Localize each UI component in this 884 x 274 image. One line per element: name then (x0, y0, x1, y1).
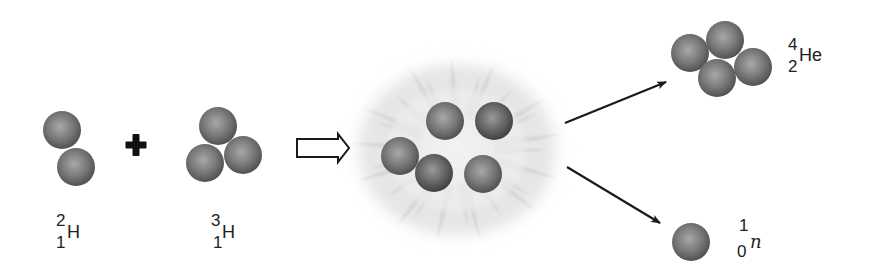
plus-icon (126, 134, 147, 156)
nucleon-sphere (426, 102, 464, 140)
nucleon-sphere (415, 154, 453, 192)
nucleon-sphere (224, 136, 262, 174)
nucleon-sphere (57, 148, 95, 186)
tritium-symbol: H (222, 223, 235, 241)
fusion-burst-cloud (342, 50, 572, 250)
neutron-atomic-number: 0 (737, 243, 746, 260)
neutron-nucleus (672, 223, 710, 261)
nucleon-sphere (186, 144, 224, 182)
nucleon-sphere (464, 155, 502, 193)
tritium-atomic-number: 1 (213, 234, 222, 251)
deuterium-nucleus (43, 111, 95, 186)
helium-atomic-number: 2 (788, 58, 797, 75)
deuterium-symbol: H (67, 223, 80, 241)
nucleon-sphere (199, 107, 237, 145)
nucleon-sphere (381, 137, 419, 175)
nucleon-sphere (706, 21, 744, 59)
nucleon-sphere (475, 102, 513, 140)
nucleon-sphere (698, 59, 736, 97)
deuterium-atomic-number: 1 (56, 234, 65, 251)
deuterium-mass-number: 2 (56, 212, 65, 229)
product-arrows (565, 82, 666, 223)
nucleon-sphere (43, 111, 81, 149)
nucleon-sphere (734, 48, 772, 86)
helium-mass-number: 4 (788, 36, 797, 53)
tritium-mass-number: 3 (211, 212, 220, 229)
nucleon-sphere (672, 223, 710, 261)
product-arrow-1 (565, 82, 666, 123)
neutron-mass-number: 1 (739, 217, 748, 234)
helium-symbol: He (799, 46, 822, 64)
neutron-symbol: n (750, 233, 762, 251)
tritium-nucleus (186, 107, 262, 182)
helium-4-nucleus (671, 21, 772, 97)
product-arrow-2 (567, 167, 660, 223)
hollow-arrow-icon (297, 134, 349, 162)
